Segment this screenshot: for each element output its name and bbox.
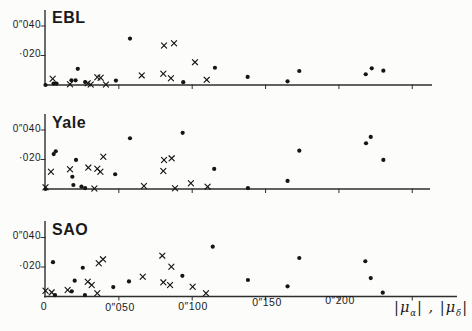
data-point-dot bbox=[83, 186, 87, 190]
scatter-plot-canvas bbox=[0, 0, 472, 331]
x-axis-unit-label: |μα| , |μδ| bbox=[394, 297, 468, 323]
panel-title-ebl: EBL bbox=[52, 9, 86, 27]
data-point-dot bbox=[246, 186, 250, 190]
y-tick-label-sao-020: ·020 bbox=[5, 260, 41, 272]
data-point-dot bbox=[381, 291, 385, 295]
y-tick-label-ebl-020: ·020 bbox=[5, 48, 41, 60]
data-point-dot bbox=[364, 141, 368, 145]
data-point-dot bbox=[74, 158, 78, 162]
data-point-dot bbox=[381, 158, 385, 162]
data-point-dot bbox=[73, 78, 77, 82]
data-point-dot bbox=[54, 81, 58, 85]
data-point-dot bbox=[83, 293, 87, 297]
data-point-dot bbox=[363, 259, 367, 263]
x-tick-label-0: 0 bbox=[41, 300, 47, 312]
y-tick-label-sao-040: 0″040 bbox=[5, 230, 41, 242]
data-point-dot bbox=[114, 78, 118, 82]
data-point-dot bbox=[381, 69, 385, 73]
x-tick-label-050: 0″050 bbox=[105, 301, 135, 313]
data-point-dot bbox=[181, 80, 185, 84]
axis-unit-part2: | , |μ bbox=[417, 299, 456, 315]
data-point-dot bbox=[213, 66, 217, 70]
x-tick-label-100: 0″100 bbox=[178, 300, 208, 312]
scatter-figure: EBL Yale SAO 0″040 ·020 0″040 ·020 0″040… bbox=[0, 0, 472, 331]
panel-title-yale: Yale bbox=[52, 114, 86, 132]
x-tick-label-200: 0″200 bbox=[325, 294, 355, 306]
data-point-dot bbox=[111, 285, 115, 289]
y-tick-label-yale-040: 0″040 bbox=[5, 123, 41, 135]
data-point-dot bbox=[211, 245, 215, 249]
data-point-dot bbox=[128, 36, 132, 40]
data-point-dot bbox=[369, 276, 373, 280]
data-point-dot bbox=[51, 260, 55, 264]
data-point-dot bbox=[370, 66, 374, 70]
data-point-dot bbox=[364, 72, 368, 76]
data-point-dot bbox=[81, 266, 85, 270]
data-point-dot bbox=[113, 172, 117, 176]
data-point-dot bbox=[297, 149, 301, 153]
data-point-dot bbox=[369, 135, 373, 139]
data-point-dot bbox=[180, 274, 184, 278]
data-point-dot bbox=[43, 83, 47, 87]
axis-unit-part3: | bbox=[462, 299, 468, 315]
data-point-dot bbox=[79, 185, 83, 189]
data-point-dot bbox=[128, 136, 132, 140]
data-point-dot bbox=[212, 167, 216, 171]
data-point-dot bbox=[285, 79, 289, 83]
data-point-dot bbox=[76, 67, 80, 71]
data-point-dot bbox=[181, 131, 185, 135]
y-tick-label-ebl-040: 0″040 bbox=[5, 19, 41, 31]
data-point-dot bbox=[285, 284, 289, 288]
data-point-dot bbox=[246, 75, 250, 79]
data-point-dot bbox=[297, 256, 301, 260]
y-tick-label-yale-020: ·020 bbox=[5, 152, 41, 164]
axis-unit-part1: |μ bbox=[394, 299, 410, 315]
data-point-dot bbox=[285, 179, 289, 183]
data-point-dot bbox=[127, 279, 131, 283]
data-point-dot bbox=[246, 278, 250, 282]
data-point-dot bbox=[73, 279, 77, 283]
data-point-dot bbox=[297, 69, 301, 73]
data-point-dot bbox=[70, 175, 74, 179]
data-point-dot bbox=[71, 183, 75, 187]
data-point-dot bbox=[54, 149, 58, 153]
x-tick-label-150: 0″150 bbox=[252, 296, 282, 308]
panel-title-sao: SAO bbox=[52, 221, 88, 239]
